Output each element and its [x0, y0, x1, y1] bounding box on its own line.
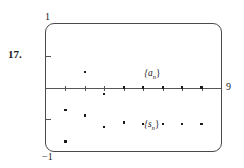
- s-sequence-label: {sn}: [144, 119, 159, 131]
- data-point: [103, 93, 105, 95]
- y-axis-tick: [46, 119, 51, 120]
- data-point: [64, 140, 66, 142]
- data-point: [162, 123, 164, 125]
- y-max-label: 1: [45, 12, 50, 22]
- exercise-number: 17.: [8, 48, 22, 60]
- x-axis-tick: [104, 86, 105, 91]
- x-axis-line: [46, 88, 221, 89]
- data-point: [142, 86, 144, 88]
- data-point: [181, 86, 183, 88]
- data-point: [162, 86, 164, 88]
- data-point: [123, 121, 125, 123]
- data-point: [123, 86, 125, 88]
- plot-area: {an}{sn}: [46, 24, 221, 151]
- a-sequence-label: {an}: [144, 68, 160, 80]
- y-min-label: −1: [42, 152, 53, 162]
- data-point: [200, 86, 202, 88]
- calculator-screen: {an}{sn}: [45, 23, 222, 152]
- y-axis-tick: [46, 56, 51, 57]
- x-axis-tick: [85, 86, 86, 91]
- data-point: [200, 123, 202, 125]
- data-point: [84, 71, 86, 73]
- data-point: [181, 123, 183, 125]
- data-point: [64, 109, 66, 111]
- x-max-label: 9: [226, 82, 231, 92]
- data-point: [84, 114, 86, 116]
- data-point: [103, 126, 105, 128]
- x-axis-tick: [65, 86, 66, 91]
- figure-root: 17. 1 −1 9 {an}{sn}: [0, 0, 244, 168]
